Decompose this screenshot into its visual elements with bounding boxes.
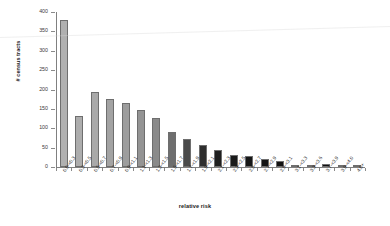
y-tick-label: 200: [39, 86, 48, 92]
y-tick-mark: [51, 90, 55, 91]
y-tick-label: 150: [39, 105, 48, 111]
bar: [91, 92, 99, 167]
bar: [106, 99, 114, 167]
bar: [75, 116, 83, 167]
y-tick-label: 0: [45, 163, 48, 169]
y-tick-mark: [51, 70, 55, 71]
y-tick-mark: [51, 51, 55, 52]
y-tick-label: 100: [39, 124, 48, 130]
y-tick-label: 50: [42, 144, 48, 150]
bars-container: [56, 12, 365, 167]
y-axis-title: # census tracts: [15, 11, 21, 111]
y-tick-label: 300: [39, 47, 48, 53]
y-tick-mark: [51, 167, 55, 168]
y-tick-mark: [51, 148, 55, 149]
bar-chart-figure: # census tracts 400350300250200150100500…: [0, 0, 390, 226]
x-axis-category-labels: 0.0-<0.30.3-<0.50.5-<0.70.7-<0.90.9-<1.1…: [0, 170, 390, 204]
y-tick-label: 400: [39, 8, 48, 14]
y-tick-label: 350: [39, 27, 48, 33]
x-axis-title: relative risk: [0, 203, 390, 209]
y-tick-label: 250: [39, 66, 48, 72]
bar: [60, 20, 68, 167]
y-tick-mark: [51, 12, 55, 13]
y-tick-mark: [51, 31, 55, 32]
y-tick-mark: [51, 109, 55, 110]
y-tick-mark: [51, 128, 55, 129]
bar: [152, 118, 160, 167]
